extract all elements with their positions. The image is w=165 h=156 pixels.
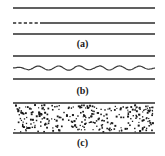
particle-dot xyxy=(36,115,38,117)
particle-dot xyxy=(58,109,59,110)
particle-dot xyxy=(142,120,143,121)
particle-dot xyxy=(101,125,103,127)
particle-dot xyxy=(145,109,146,110)
particle-dot xyxy=(66,114,68,116)
particle-dot xyxy=(71,108,72,109)
particle-dot xyxy=(127,110,128,111)
particle-dot xyxy=(74,125,75,126)
particle-dot xyxy=(57,115,59,117)
particle-dot xyxy=(83,127,84,128)
particle-dot xyxy=(85,115,86,116)
particle-dot xyxy=(109,108,111,110)
particle-dot xyxy=(52,127,53,128)
particle-dot xyxy=(40,113,41,114)
particle-dot xyxy=(71,126,72,127)
particle-dot xyxy=(40,121,42,123)
particle-dot xyxy=(96,120,97,121)
particle-dot xyxy=(139,118,140,119)
particle-dot xyxy=(116,108,117,109)
particle-dot xyxy=(119,114,120,115)
particle-dot xyxy=(59,116,61,118)
particle-dot xyxy=(90,115,92,117)
particle-dot xyxy=(61,126,63,128)
particle-dot xyxy=(56,126,58,128)
particle-dot xyxy=(34,125,35,126)
particle-dot xyxy=(130,106,132,108)
particle-dot xyxy=(85,107,86,108)
particle-dot xyxy=(46,127,48,129)
particle-dot xyxy=(37,131,39,133)
particle-dot xyxy=(106,118,108,120)
particle-dot xyxy=(139,108,141,110)
particle-dot xyxy=(51,105,53,107)
particle-dot xyxy=(29,108,31,110)
particle-dot xyxy=(34,104,36,106)
particle-dot xyxy=(100,114,102,116)
particle-dot xyxy=(32,119,34,121)
particle-dot xyxy=(101,120,102,121)
particle-dot xyxy=(120,117,122,119)
particle-dot xyxy=(143,119,145,121)
particle-dot xyxy=(32,127,33,128)
particle-dot xyxy=(47,114,49,116)
particle-dot xyxy=(58,129,60,131)
particle-dot xyxy=(21,110,22,111)
particle-field xyxy=(14,104,154,133)
particle-dot xyxy=(148,125,150,127)
particle-dot xyxy=(59,105,60,106)
particle-dot xyxy=(43,104,45,106)
particle-dot xyxy=(100,109,101,110)
particle-dot xyxy=(132,109,134,111)
particle-dot xyxy=(128,112,129,113)
particle-dot xyxy=(128,122,130,124)
particle-dot xyxy=(48,121,49,122)
particle-dot xyxy=(82,126,83,127)
particle-dot xyxy=(47,108,49,110)
particle-dot xyxy=(147,108,148,109)
particle-dot xyxy=(128,113,129,114)
particle-dot xyxy=(93,122,94,123)
particle-dot xyxy=(89,122,90,123)
particle-dot xyxy=(120,127,121,128)
particle-dot xyxy=(25,130,26,131)
particle-dot xyxy=(149,122,151,124)
particle-dot xyxy=(26,128,27,129)
particle-dot xyxy=(43,117,45,119)
particle-dot xyxy=(146,128,147,129)
particle-dot xyxy=(145,130,147,132)
particle-dot xyxy=(23,121,24,122)
particle-dot xyxy=(68,107,69,108)
particle-dot xyxy=(132,121,133,122)
particle-dot xyxy=(91,121,92,122)
particle-dot xyxy=(123,117,125,119)
panel-a-caption: (a) xyxy=(0,38,165,49)
particle-dot xyxy=(73,120,75,122)
particle-dot xyxy=(33,122,34,123)
particle-dot xyxy=(147,121,148,122)
particle-dot xyxy=(92,106,93,107)
particle-dot xyxy=(82,111,84,113)
particle-dot xyxy=(88,117,90,119)
particle-dot xyxy=(38,107,39,108)
particle-dot xyxy=(68,119,70,121)
particle-dot xyxy=(103,115,104,116)
particle-dot xyxy=(127,116,129,118)
particle-dot xyxy=(152,110,153,111)
particle-dot xyxy=(84,123,86,125)
particle-dot xyxy=(111,110,112,111)
particle-dot xyxy=(120,107,122,109)
particle-dot xyxy=(72,114,74,116)
particle-dot xyxy=(134,128,135,129)
particle-dot xyxy=(51,118,52,119)
particle-dot xyxy=(77,115,78,116)
particle-dot xyxy=(76,127,78,129)
wavy-interface-line xyxy=(13,66,155,70)
particle-dot xyxy=(107,121,109,123)
particle-dot xyxy=(73,106,74,107)
particle-dot xyxy=(151,114,153,116)
particle-dot xyxy=(54,106,56,108)
particle-dot xyxy=(56,106,57,107)
particle-dot xyxy=(97,112,99,114)
particle-dot xyxy=(81,105,83,107)
particle-dot xyxy=(79,129,80,130)
